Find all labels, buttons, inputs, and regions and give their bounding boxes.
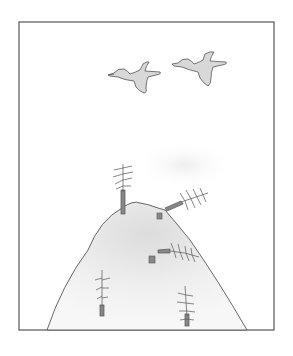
stump-icon [157,213,162,219]
stump-icon [149,256,155,263]
drawing [0,0,293,356]
